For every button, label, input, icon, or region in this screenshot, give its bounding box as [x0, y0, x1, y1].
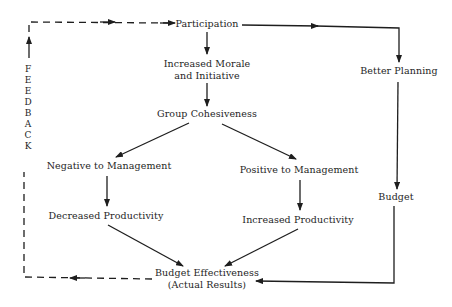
feedback-letter: F [25, 64, 31, 74]
node-participation: Participation [175, 18, 238, 30]
node-budget-effectiveness-line1: Budget Effectiveness [155, 267, 259, 279]
node-positive-to-management: Positive to Management [240, 164, 359, 176]
feedback-letter: D [24, 97, 31, 107]
feedback-letter: K [25, 141, 32, 151]
node-budget-effectiveness-line2: (Actual Results) [155, 279, 259, 291]
feedback-letter: C [25, 130, 32, 140]
node-budget: Budget [378, 191, 413, 203]
budget-participation-diagram: Participation Increased Morale and Initi… [0, 0, 452, 307]
arrow-increased-to-effectiveness [225, 229, 298, 266]
node-increased-morale: Increased Morale and Initiative [164, 58, 251, 81]
feedback-dashed-lower [24, 172, 152, 279]
feedback-letter: A [25, 119, 32, 129]
arrow-cohesiveness-to-negative [116, 123, 189, 157]
arrow-decreased-to-effectiveness [108, 225, 183, 266]
feedback-letter: B [25, 108, 32, 118]
arrow-participation-right-mid [242, 25, 318, 26]
node-group-cohesiveness: Group Cohesiveness [157, 108, 257, 120]
feedback-letter: E [25, 86, 32, 96]
node-increased-morale-line2: and Initiative [164, 70, 251, 82]
arrow-better-planning-to-budget [397, 82, 398, 189]
arrow-participation-to-better-planning [316, 26, 399, 62]
node-decreased-productivity: Decreased Productivity [49, 210, 164, 222]
node-increased-morale-line1: Increased Morale [164, 58, 251, 70]
connector-lines [0, 0, 452, 307]
feedback-dashed-upper [29, 22, 170, 32]
node-budget-effectiveness: Budget Effectiveness (Actual Results) [155, 267, 259, 290]
node-better-planning: Better Planning [360, 65, 438, 77]
node-negative-to-management: Negative to Management [47, 160, 172, 172]
node-increased-productivity: Increased Productivity [242, 214, 353, 226]
arrow-cohesiveness-to-positive [222, 124, 296, 159]
feedback-letter: E [25, 75, 32, 85]
